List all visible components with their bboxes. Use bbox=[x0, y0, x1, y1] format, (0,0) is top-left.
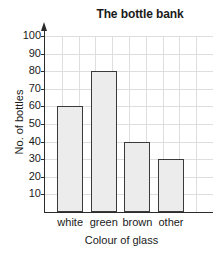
y-tick-label: 60 bbox=[11, 100, 41, 111]
y-axis-line bbox=[44, 30, 45, 213]
bar-chart: The bottle bank No. of bottles 100908070… bbox=[0, 0, 223, 263]
y-tick-mark bbox=[41, 36, 45, 37]
y-tick-label: 30 bbox=[11, 153, 41, 164]
bar-other bbox=[158, 159, 184, 212]
y-tick-mark bbox=[41, 194, 45, 195]
gridline-vertical bbox=[196, 36, 197, 212]
y-tick-mark bbox=[41, 142, 45, 143]
y-tick-label: 90 bbox=[11, 48, 41, 59]
bar-green bbox=[91, 71, 117, 212]
y-tick-mark bbox=[41, 159, 45, 160]
y-tick-mark bbox=[41, 124, 45, 125]
y-tick-label: 40 bbox=[11, 136, 41, 147]
chart-title: The bottle bank bbox=[60, 7, 220, 21]
x-axis-tick-labels: whitegreenbrownother bbox=[45, 216, 213, 232]
x-axis-label: Colour of glass bbox=[30, 234, 213, 246]
x-axis-line bbox=[45, 212, 213, 213]
y-tick-label: 100 bbox=[11, 30, 41, 41]
y-tick-mark bbox=[41, 71, 45, 72]
y-tick-label: 10 bbox=[11, 188, 41, 199]
y-tick-mark bbox=[41, 106, 45, 107]
plot-area bbox=[45, 36, 213, 212]
y-tick-label: 70 bbox=[11, 83, 41, 94]
y-tick-mark bbox=[41, 89, 45, 90]
bar-brown bbox=[124, 142, 150, 212]
bar-white bbox=[57, 106, 83, 212]
y-tick-label: 20 bbox=[11, 171, 41, 182]
y-tick-label: 50 bbox=[11, 118, 41, 129]
y-tick-label: 80 bbox=[11, 65, 41, 76]
y-tick-mark bbox=[41, 54, 45, 55]
y-tick-mark bbox=[41, 177, 45, 178]
x-tick-label-other: other bbox=[145, 216, 197, 228]
y-axis-tick-labels: 100908070605040302010 bbox=[8, 0, 41, 263]
